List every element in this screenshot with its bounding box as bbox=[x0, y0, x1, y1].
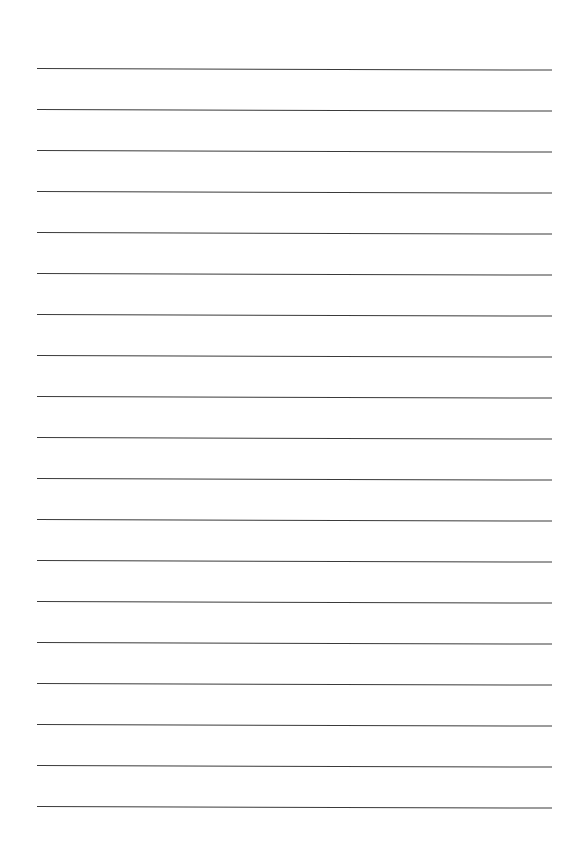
rule-line-18 bbox=[37, 765, 552, 768]
rule-line-13 bbox=[37, 560, 552, 563]
rule-line-6 bbox=[37, 273, 552, 276]
rule-line-1 bbox=[37, 68, 552, 71]
rule-line-7 bbox=[37, 314, 552, 317]
rule-line-3 bbox=[37, 150, 552, 153]
rule-line-16 bbox=[37, 683, 552, 686]
rule-line-17 bbox=[37, 724, 552, 727]
rule-line-4 bbox=[37, 191, 552, 194]
ruled-writing-area[interactable] bbox=[0, 0, 568, 866]
rule-line-11 bbox=[37, 478, 552, 481]
rule-line-10 bbox=[37, 437, 552, 440]
rule-line-8 bbox=[37, 355, 552, 358]
rule-line-9 bbox=[37, 396, 552, 399]
rule-line-14 bbox=[37, 601, 552, 604]
rule-line-19 bbox=[37, 806, 552, 809]
lined-paper-page bbox=[0, 0, 568, 866]
rule-line-15 bbox=[37, 642, 552, 645]
rule-line-12 bbox=[37, 519, 552, 522]
rule-line-5 bbox=[37, 232, 552, 235]
rule-line-2 bbox=[37, 109, 552, 112]
